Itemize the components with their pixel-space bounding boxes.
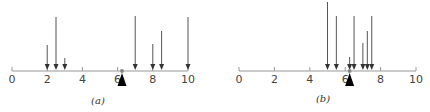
- balance-diagram: 0246810(a) 0246810(b): [0, 0, 430, 112]
- panel-b: 0246810(b): [236, 2, 424, 104]
- tick-label: 0: [236, 73, 243, 86]
- panel-a: 0246810(a): [9, 16, 196, 106]
- arrow-head-icon: [325, 64, 330, 70]
- panel-caption: (a): [91, 95, 105, 106]
- tick-label: 0: [9, 73, 16, 86]
- tick-label: 8: [377, 73, 384, 86]
- arrow-head-icon: [45, 64, 50, 70]
- arrow-head-icon: [159, 64, 164, 70]
- tick-label: 2: [44, 73, 51, 86]
- tick-label: 4: [306, 73, 313, 86]
- tick-label: 4: [79, 73, 86, 86]
- arrow-head-icon: [62, 64, 67, 70]
- arrow-head-icon: [150, 64, 155, 70]
- arrow-head-icon: [334, 64, 339, 70]
- arrow-head-icon: [54, 64, 59, 70]
- arrow-head-icon: [133, 64, 138, 70]
- tick-label: 2: [271, 73, 278, 86]
- tick-label: 10: [409, 73, 423, 86]
- arrow-head-icon: [186, 64, 191, 70]
- fulcrum-point: [120, 69, 124, 73]
- arrow-head-icon: [352, 64, 357, 70]
- fulcrum-point: [348, 69, 352, 73]
- tick-label: 8: [149, 73, 156, 86]
- arrow-head-icon: [365, 64, 370, 70]
- tick-label: 10: [181, 73, 195, 86]
- panel-caption: (b): [316, 93, 330, 104]
- arrow-head-icon: [360, 64, 365, 70]
- arrow-head-icon: [369, 64, 374, 70]
